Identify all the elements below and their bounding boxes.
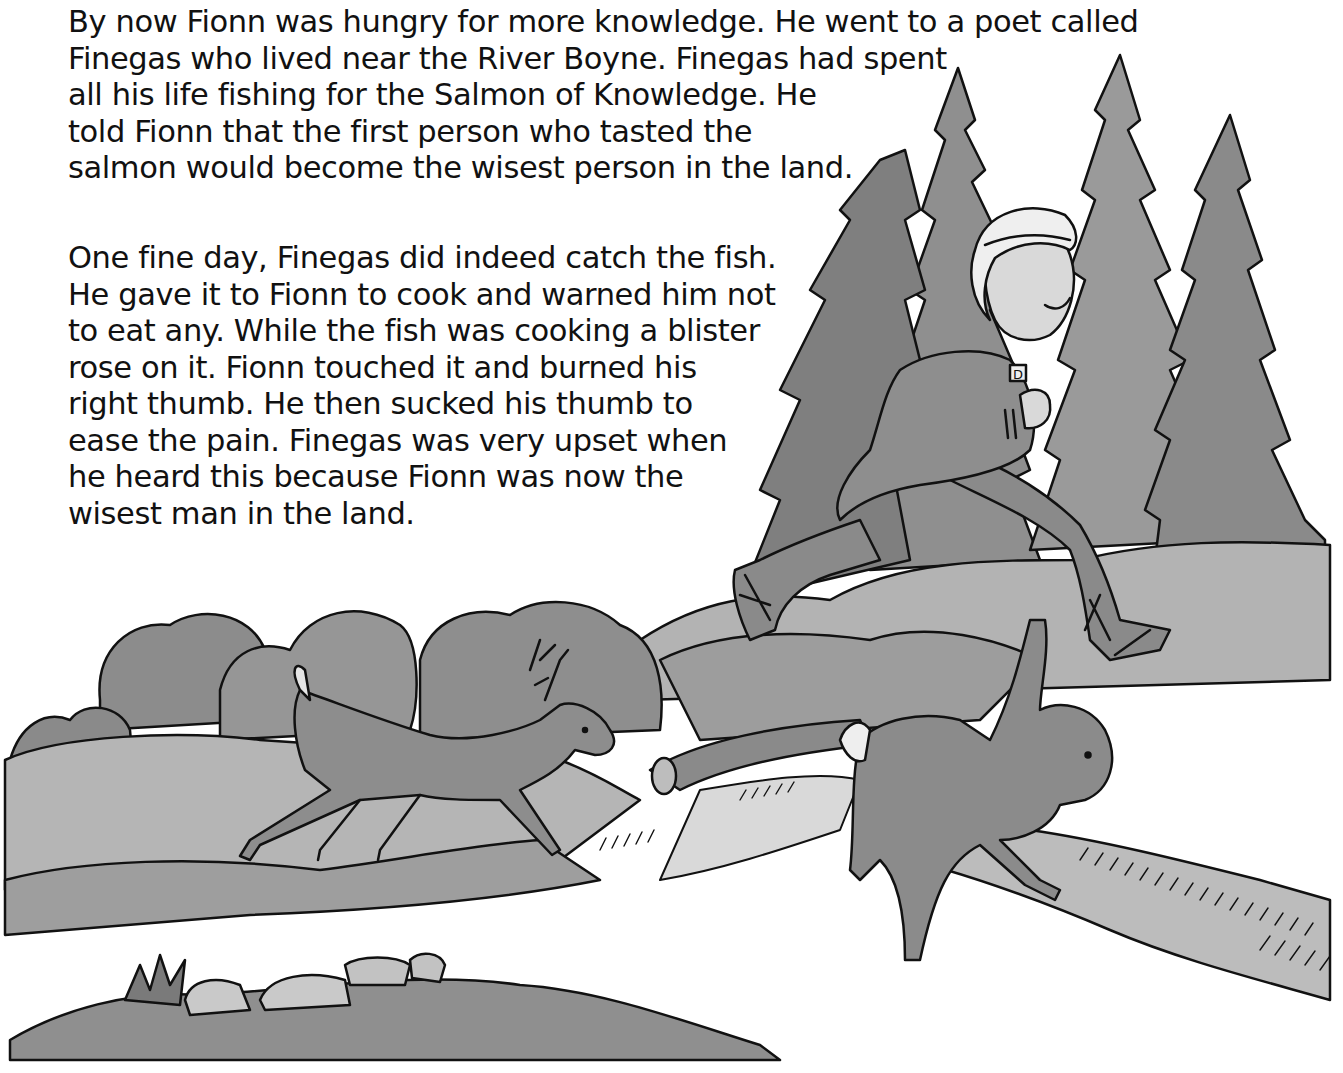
text-line: Finegas who lived near the River Boyne. … <box>68 41 1139 78</box>
text-line: rose on it. Fionn touched it and burned … <box>68 350 776 387</box>
stream-path <box>660 776 860 880</box>
text-line: salmon would become the wisest person in… <box>68 150 1139 187</box>
text-line: He gave it to Fionn to cook and warned h… <box>68 277 776 314</box>
bottom-bush <box>10 980 780 1060</box>
text-line: to eat any. While the fish was cooking a… <box>68 313 776 350</box>
text-line: right thumb. He then sucked his thumb to <box>68 386 776 423</box>
rock-2 <box>260 975 350 1010</box>
fionn-fist <box>1020 390 1050 428</box>
text-line: told Fionn that the first person who tas… <box>68 114 1139 151</box>
paragraph-fionn-seeks-knowledge: By now Fionn was hungry for more knowled… <box>68 4 1139 187</box>
svg-text:D: D <box>1013 367 1023 382</box>
text-line: wisest man in the land. <box>68 496 776 533</box>
rock-4 <box>410 954 445 982</box>
paragraph-salmon-cooking: One fine day, Finegas did indeed catch t… <box>68 240 776 532</box>
text-line: ease the pain. Finegas was very upset wh… <box>68 423 776 460</box>
text-line: all his life fishing for the Salmon of K… <box>68 77 1139 114</box>
log-end <box>652 758 676 794</box>
tuft-plant <box>125 955 185 1005</box>
rock-3 <box>345 958 410 986</box>
text-line: By now Fionn was hungry for more knowled… <box>68 4 1139 41</box>
text-line: he heard this because Fionn was now the <box>68 459 776 496</box>
rock-1 <box>185 980 250 1015</box>
text-line: One fine day, Finegas did indeed catch t… <box>68 240 776 277</box>
